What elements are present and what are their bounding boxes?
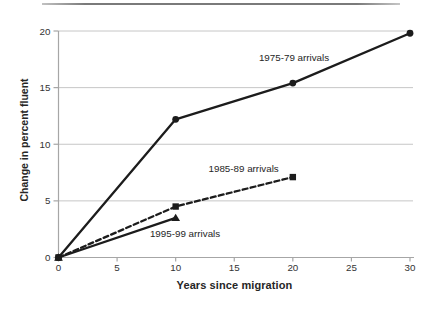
x-tick-label-10: 10 <box>170 262 181 273</box>
x-tick-label-20: 20 <box>287 262 298 273</box>
x-tick-label-30: 30 <box>405 262 416 273</box>
x-tick-label-25: 25 <box>346 262 357 273</box>
marker-square-s1-p2 <box>290 174 296 180</box>
y-tick-label-20: 20 <box>40 26 51 37</box>
x-tick-label-5: 5 <box>114 262 120 273</box>
y-tick-label-0: 0 <box>45 252 51 263</box>
figure-page: 051015202530051015201975-79 arrivals1985… <box>0 0 435 309</box>
fluency-change-chart: 051015202530051015201975-79 arrivals1985… <box>0 0 435 309</box>
y-tick-label-15: 15 <box>40 82 51 93</box>
y-tick-label-5: 5 <box>45 195 51 206</box>
marker-triangle-s2-p1 <box>171 214 180 221</box>
marker-square-s1-p1 <box>172 203 178 209</box>
marker-circle-s0-p1 <box>172 116 179 123</box>
series-inline-label-0: 1975-79 arrivals <box>259 52 329 63</box>
y-axis-title: Change in percent fluent <box>18 78 30 201</box>
series-inline-label-2: 1995-99 arrivals <box>150 228 220 239</box>
x-axis-title: Years since migration <box>58 279 411 291</box>
series-inline-label-1: 1985-89 arrivals <box>208 163 278 174</box>
marker-circle-s0-p3 <box>407 30 414 37</box>
y-tick-label-10: 10 <box>40 139 51 150</box>
series-line-0 <box>59 33 411 257</box>
x-tick-label-0: 0 <box>56 262 62 273</box>
marker-circle-s0-p2 <box>289 80 296 87</box>
chart-canvas: 051015202530051015201975-79 arrivals1985… <box>0 0 435 309</box>
x-tick-label-15: 15 <box>229 262 240 273</box>
